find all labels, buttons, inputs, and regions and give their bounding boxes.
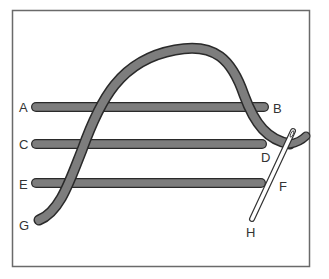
label-f: F bbox=[279, 179, 287, 194]
label-a: A bbox=[19, 100, 28, 115]
stitch-diagram: A B C D E F G H bbox=[0, 0, 329, 279]
label-b: B bbox=[273, 101, 282, 116]
label-c: C bbox=[19, 137, 28, 152]
label-g: G bbox=[19, 218, 29, 233]
label-d: D bbox=[261, 150, 270, 165]
label-h: H bbox=[246, 225, 255, 240]
label-e: E bbox=[19, 177, 28, 192]
